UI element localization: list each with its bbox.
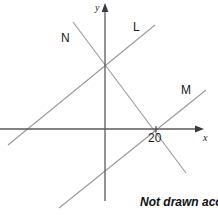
x-intercept-value-label: 20	[148, 132, 161, 144]
line-label-N: N	[61, 32, 70, 44]
line-L	[8, 25, 155, 145]
x-axis-label: x	[203, 133, 207, 143]
graph-svg	[0, 0, 218, 215]
y-axis-label: y	[95, 3, 99, 13]
y-axis-arrowhead	[102, 3, 109, 12]
line-N	[73, 22, 186, 173]
line-label-L: L	[133, 21, 140, 33]
line-M	[59, 90, 206, 208]
figure-canvas: N L M 20 y x Not drawn accurately	[0, 0, 218, 215]
line-label-M: M	[181, 84, 191, 96]
not-drawn-accurately-note: Not drawn accurately	[140, 196, 218, 208]
